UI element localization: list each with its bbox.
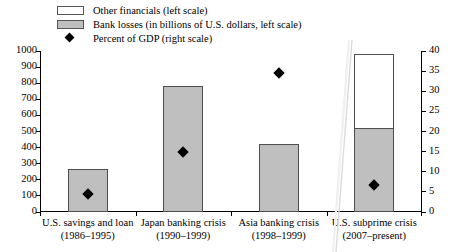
left-tick-label: 0 <box>1 206 37 216</box>
plot-area: 01002003004005006007008009001000 0510152… <box>40 51 422 212</box>
right-tick-label: 10 <box>429 166 459 176</box>
legend-item-other-financials: Other financials (left scale) <box>57 4 387 17</box>
chart-legend: Other financials (left scale) Bank losse… <box>57 4 387 46</box>
right-tick-label: 25 <box>429 105 459 115</box>
category-label-name: U.S. subprime crisis <box>314 216 434 229</box>
legend-item-percent-gdp: Percent of GDP (right scale) <box>57 32 387 45</box>
left-tick-label: 400 <box>1 142 37 152</box>
left-tick-label: 900 <box>1 61 37 71</box>
right-tick-label: 35 <box>429 65 459 75</box>
right-tick-label: 15 <box>429 146 459 156</box>
legend-marker-diamond-icon <box>57 34 84 43</box>
right-tick-mark <box>422 151 426 152</box>
right-tick-mark <box>422 91 426 92</box>
left-axis-line <box>40 51 41 212</box>
category-label-period: (2007–present) <box>314 229 434 242</box>
legend-swatch-other-financials <box>57 6 84 15</box>
legend-label-other-financials: Other financials (left scale) <box>93 5 208 16</box>
right-tick-mark <box>422 131 426 132</box>
legend-swatch-bank-losses <box>57 20 84 29</box>
legend-item-bank-losses: Bank losses (in billions of U.S. dollars… <box>57 18 387 31</box>
bar-segment-bank-losses <box>354 128 394 212</box>
left-tick-label: 1000 <box>1 45 37 55</box>
legend-label-percent-gdp: Percent of GDP (right scale) <box>93 33 212 44</box>
right-tick-label: 40 <box>429 45 459 55</box>
right-tick-label: 5 <box>429 186 459 196</box>
left-tick-label: 100 <box>1 190 37 200</box>
left-tick-label: 500 <box>1 126 37 136</box>
right-tick-mark <box>422 212 426 213</box>
legend-label-bank-losses: Bank losses (in billions of U.S. dollars… <box>93 19 302 30</box>
left-tick-label: 200 <box>1 174 37 184</box>
right-tick-mark <box>422 71 426 72</box>
left-tick-label: 300 <box>1 158 37 168</box>
gdp-marker-diamond-icon <box>273 67 284 78</box>
right-tick-label: 30 <box>429 85 459 95</box>
right-tick-label: 0 <box>429 206 459 216</box>
bar-segment-bank-losses <box>259 144 299 212</box>
left-tick-label: 700 <box>1 93 37 103</box>
bar-segment-other-financials <box>354 54 394 129</box>
right-tick-label: 20 <box>429 126 459 136</box>
category-label: U.S. subprime crisis(2007–present) <box>314 216 434 242</box>
right-tick-mark <box>422 111 426 112</box>
right-tick-mark <box>422 191 426 192</box>
left-tick-label: 800 <box>1 77 37 87</box>
left-tick-label: 600 <box>1 109 37 119</box>
right-tick-mark <box>422 51 426 52</box>
right-tick-mark <box>422 171 426 172</box>
bank-losses-chart: Other financials (left scale) Bank losse… <box>0 0 467 252</box>
